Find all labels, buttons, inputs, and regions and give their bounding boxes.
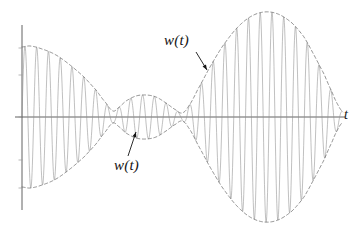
waveform-figure: w(t) w(t) t <box>0 0 358 236</box>
envelope-lower-path <box>22 121 342 222</box>
envelope-label-lower: w(t) <box>114 158 139 173</box>
t-axis-label: t <box>344 108 348 122</box>
annotation-arrows <box>128 52 207 156</box>
envelope-label-upper-arrowhead <box>203 65 207 70</box>
envelope-upper-path <box>22 12 342 113</box>
envelope-label-upper: w(t) <box>164 33 189 48</box>
